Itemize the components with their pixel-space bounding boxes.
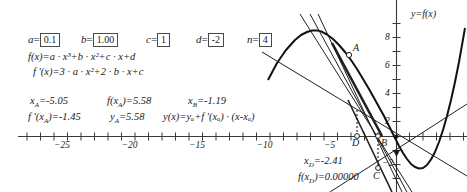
y-tick-label-minus2: −2 (382, 158, 393, 168)
parameter-b: b=1.00 (81, 33, 118, 47)
point-label-a: A (353, 42, 359, 53)
result-ya-value: =5.58 (119, 111, 144, 122)
parameter-n-input[interactable]: 4 (259, 33, 272, 47)
result-xd-value: =-2.41 (314, 155, 343, 166)
cubic-curve (268, 28, 465, 169)
x-tick-label-minus25: −25 (54, 140, 70, 150)
y-tick-label-8: 8 (385, 32, 390, 42)
function-plot (0, 0, 467, 192)
parameter-c: c=1 (146, 33, 170, 47)
curve-label: y=f(x) (411, 8, 436, 19)
parameter-c-input[interactable]: 1 (157, 33, 170, 47)
parameter-d: d=-2 (196, 33, 224, 47)
result-xa-value: =-5.05 (39, 95, 68, 106)
parameter-a: a=0.1 (28, 33, 60, 47)
axis-arrow (393, 150, 400, 157)
formula-fprime-definition: f '(x)=3 · a · x²+2 · b · x+c (33, 66, 143, 77)
point-label-d: D (352, 137, 359, 148)
point-b-marker (376, 134, 381, 139)
result-xb-value: =-1.19 (197, 95, 226, 106)
result-fxd-name: f(x (298, 171, 309, 182)
y-tick-label-2: 2 (385, 116, 390, 126)
y-tick-label-6: 6 (385, 60, 390, 70)
point-a-marker (346, 52, 351, 57)
x-tick-label-minus10: −10 (257, 140, 273, 150)
parameter-a-input[interactable]: 0.1 (40, 33, 61, 47)
result-ya: yA=5.58 (110, 111, 144, 125)
result-fxa-value: =5.58 (126, 95, 151, 106)
y-tick-label-4: 4 (385, 88, 390, 98)
result-fxd: f(xD)=0.00000 (298, 171, 359, 185)
result-fxd-value: =0.00000 (318, 171, 359, 182)
applet-window: −25 −20 −15 −10 −5 2 4 6 8 −2 y=f(x) A B… (0, 0, 467, 192)
result-fpxa-value: =-1.45 (52, 111, 81, 122)
result-fxa-name: f(x (107, 95, 118, 106)
result-fpxa-name: f '(x (28, 111, 44, 122)
point-label-b: B (381, 137, 387, 148)
result-fxa: f(xA)=5.58 (107, 95, 151, 109)
formula-f-definition: f(x)=a · x³+b · x²+c · x+d (28, 51, 135, 62)
result-fpxa: f '(xA)=-1.45 (28, 111, 81, 125)
x-tick-label-minus20: −20 (122, 140, 138, 150)
result-xa: xA=-5.05 (30, 95, 68, 109)
formula-tangent-definition: y(x)=yₐ+f '(xₐ) · (x-xₐ) (163, 111, 255, 122)
x-tick-label-minus5: −5 (324, 140, 335, 150)
x-axis (18, 133, 467, 141)
x-tick-label-minus15: −15 (189, 140, 205, 150)
result-xb: xB=-1.19 (188, 95, 226, 109)
point-label-c: C (373, 170, 380, 181)
tangent-lines (262, 14, 467, 192)
parameter-b-input[interactable]: 1.00 (93, 33, 119, 47)
parameter-n: n=4 (247, 33, 272, 47)
result-xd: xD=-2.41 (304, 155, 343, 169)
parameter-d-input[interactable]: -2 (208, 33, 224, 47)
